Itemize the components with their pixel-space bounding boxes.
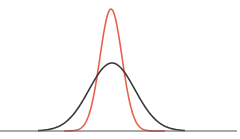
wide-distribution-curve	[38, 63, 185, 131]
bell-curves-chart	[0, 0, 240, 139]
